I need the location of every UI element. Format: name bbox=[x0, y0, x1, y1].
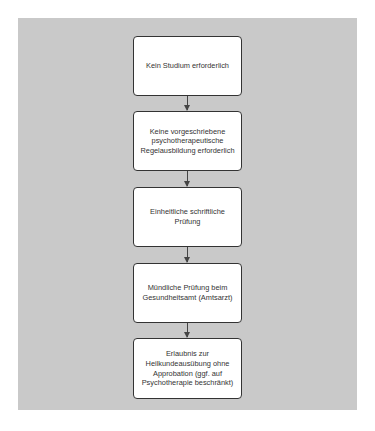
node-erlaubnis: Erlaubnis zur Heilkundeausübung ohne App… bbox=[133, 338, 242, 399]
node-schriftliche-pruefung: Einheitliche schriftliche Prüfung bbox=[133, 187, 242, 247]
node-label: Keine vorgeschriebene psychotherapeutisc… bbox=[138, 127, 237, 156]
arrow-4-5 bbox=[187, 323, 188, 337]
node-muendliche-pruefung: Mündliche Prüfung beim Gesundheitsamt (A… bbox=[133, 263, 242, 323]
node-label: Kein Studium erforderlich bbox=[146, 61, 229, 71]
arrow-2-3 bbox=[187, 171, 188, 186]
node-label: Einheitliche schriftliche Prüfung bbox=[138, 207, 237, 226]
arrow-1-2 bbox=[187, 96, 188, 110]
node-kein-studium: Kein Studium erforderlich bbox=[133, 36, 242, 96]
node-keine-regelausbildung: Keine vorgeschriebene psychotherapeutisc… bbox=[133, 111, 242, 171]
node-label: Mündliche Prüfung beim Gesundheitsamt (A… bbox=[138, 283, 237, 302]
node-label: Erlaubnis zur Heilkundeausübung ohne App… bbox=[138, 349, 237, 387]
arrow-3-4 bbox=[187, 247, 188, 262]
